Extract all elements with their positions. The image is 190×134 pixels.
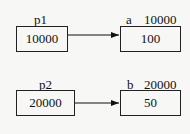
target-box-b: 50 — [120, 90, 181, 116]
pointer-value-p2: 20000 — [29, 95, 62, 111]
target-value-a: 100 — [141, 31, 161, 47]
target-address-a: 10000 — [144, 13, 177, 26]
pointer-box-p1: 10000 — [16, 26, 68, 52]
target-value-b: 50 — [144, 95, 157, 111]
pointer-value-p1: 10000 — [26, 31, 59, 47]
pointer-box-p2: 20000 — [16, 90, 75, 116]
target-box-a: 100 — [120, 26, 181, 52]
target-label-a: a — [126, 13, 132, 26]
pointer-label-p1: p1 — [34, 13, 47, 26]
